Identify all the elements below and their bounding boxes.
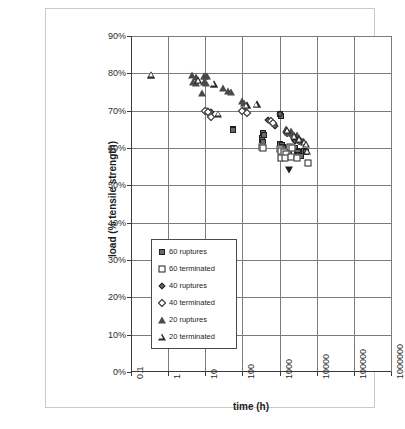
legend-marker-open-diamond-icon	[156, 297, 167, 308]
gridline-vertical	[242, 36, 243, 372]
legend-item: 40 ruptures	[156, 277, 234, 294]
x-axis-tick-label: 0.1	[135, 366, 145, 379]
data-point	[210, 80, 218, 87]
data-point	[253, 100, 261, 107]
gridline-horizontal	[131, 223, 391, 224]
y-axis-tick-label: 60%	[108, 143, 126, 153]
legend-marker-open-triangle-icon	[156, 331, 167, 342]
legend-marker-open-square-icon	[156, 263, 167, 274]
legend-label: 60 ruptures	[169, 248, 207, 256]
data-point	[261, 132, 267, 138]
legend-label: 20 terminated	[169, 333, 215, 341]
y-axis-tick-label: 30%	[108, 255, 126, 265]
data-point	[260, 145, 267, 152]
gridline-vertical	[391, 36, 392, 372]
data-point	[147, 71, 155, 78]
legend-label: 20 ruptures	[169, 316, 207, 324]
legend-label: 40 ruptures	[169, 282, 207, 290]
y-axis-tick-label: 10%	[108, 330, 126, 340]
legend-label: 40 terminated	[169, 299, 215, 307]
data-point	[305, 159, 312, 166]
legend-marker-filled-triangle-icon	[156, 314, 167, 325]
y-axis-tick-label: 40%	[108, 218, 126, 228]
x-axis-tick-mark	[391, 372, 392, 376]
x-axis-tick-mark	[168, 372, 169, 376]
y-axis-tick-label: 70%	[108, 106, 126, 116]
chart-frame: load (% tensile strength) time (h) 0%10%…	[45, 8, 375, 408]
data-point	[303, 147, 311, 154]
legend-label: 60 terminated	[169, 265, 215, 273]
legend-item: 60 terminated	[156, 260, 234, 277]
legend-marker-filled-square-icon	[156, 246, 167, 257]
x-axis-tick-mark	[131, 372, 132, 376]
y-axis-tick-label: 50%	[108, 180, 126, 190]
legend-item: 20 terminated	[156, 328, 234, 345]
data-point	[194, 77, 202, 84]
data-point	[230, 127, 236, 133]
legend-item: 20 ruptures	[156, 311, 234, 328]
gridline-vertical	[354, 36, 355, 372]
data-point	[227, 89, 235, 96]
x-axis-tick-mark	[205, 372, 206, 376]
gridline-horizontal	[131, 73, 391, 74]
y-axis-line	[131, 36, 132, 372]
x-axis-tick-mark	[354, 372, 355, 376]
data-point	[288, 145, 295, 152]
legend: 60 ruptures60 terminated40 ruptures40 te…	[151, 239, 237, 349]
x-axis-tick-label: 1000000	[395, 344, 405, 379]
gridline-vertical	[317, 36, 318, 372]
x-axis-tick-mark	[242, 372, 243, 376]
x-axis-tick-label: 1000	[284, 359, 294, 379]
gridline-horizontal	[131, 36, 391, 37]
data-point	[214, 110, 222, 117]
data-point	[283, 127, 291, 134]
data-point	[243, 102, 251, 109]
x-axis-tick-label: 10000	[321, 354, 331, 379]
gridline-horizontal	[131, 185, 391, 186]
x-axis-tick-label: 1	[172, 374, 182, 379]
x-axis-title: time (h)	[233, 401, 269, 412]
y-axis-tick-label: 0%	[113, 367, 126, 377]
gridline-vertical	[280, 36, 281, 372]
y-axis-title: load (% tensile strength)	[107, 141, 118, 257]
gridline-horizontal	[131, 111, 391, 112]
data-point	[285, 167, 293, 174]
data-point	[294, 155, 301, 162]
y-axis-tick-label: 80%	[108, 68, 126, 78]
legend-item: 40 terminated	[156, 294, 234, 311]
y-axis-tick-label: 90%	[108, 31, 126, 41]
data-point	[198, 89, 206, 96]
y-axis-tick-label: 20%	[108, 292, 126, 302]
x-axis-tick-mark	[317, 372, 318, 376]
legend-item: 60 ruptures	[156, 243, 234, 260]
x-axis-tick-label: 100000	[358, 349, 368, 379]
x-axis-tick-mark	[280, 372, 281, 376]
x-axis-line	[131, 371, 391, 372]
legend-marker-filled-diamond-icon	[156, 280, 167, 291]
